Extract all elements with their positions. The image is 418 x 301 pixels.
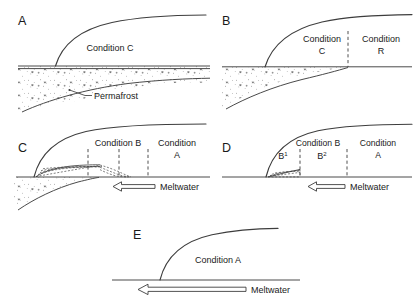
panel-b-condition-r-line1: Condition: [362, 34, 400, 44]
glacier-permafrost-figure: A Condition C Permafrost B: [0, 0, 418, 301]
panel-d-glacier-curve: [266, 124, 412, 177]
panel-a-condition-label: Condition C: [86, 43, 134, 53]
panel-e-letter: E: [133, 228, 141, 242]
panel-a: A Condition C Permafrost: [18, 14, 210, 112]
panel-b-condition-r-line2: R: [378, 46, 385, 56]
panel-e-meltwater-arrow-icon: [138, 284, 246, 294]
panel-e: E Condition A Meltwater: [112, 228, 300, 295]
panel-c-condition-a-line2: A: [174, 150, 180, 160]
panel-d-letter: D: [222, 141, 231, 155]
panel-d-meltwater-label: Meltwater: [350, 182, 389, 192]
panel-d-condition-a-line1: Condition: [360, 138, 397, 148]
panel-a-letter: A: [18, 14, 27, 28]
panel-d-subzone-b1-sup: 1: [284, 151, 288, 157]
panel-d-condition-a-line2: A: [375, 150, 381, 160]
panel-c-condition-a-line1: Condition: [158, 138, 196, 148]
panel-c-meltwater-arrow-icon: [113, 182, 155, 191]
panel-d-subzone-b2-sup: 2: [323, 151, 327, 157]
panel-c-letter: C: [18, 141, 27, 155]
panel-e-condition-a-label: Condition A: [195, 255, 241, 265]
panel-c-subglacial-dash-wedge: [36, 165, 131, 177]
panel-a-permafrost-leader-dot: [68, 89, 70, 91]
panel-b: B Condition C Condition R: [222, 14, 412, 109]
panel-b-letter: B: [222, 14, 230, 28]
panel-d-subzone-b2: B2: [317, 151, 327, 162]
panel-d-subzone-b1: B1: [278, 151, 288, 162]
panel-d-condition-b-label: Condition B: [296, 138, 341, 148]
panel-e-meltwater-label: Meltwater: [251, 285, 290, 295]
panel-b-condition-c-line2: C: [319, 46, 326, 56]
panel-a-permafrost-label: Permafrost: [94, 91, 139, 101]
panel-d-subglacial-dash-wedge: [268, 169, 300, 177]
panel-b-condition-c-line1: Condition: [303, 34, 341, 44]
permafrost-stipple-fill-a: [18, 66, 210, 110]
panel-a-glacier-curve: [56, 15, 207, 66]
panel-d: D Condition B Condition A B1 B2: [222, 124, 412, 191]
panel-c-condition-b-label: Condition B: [95, 138, 142, 148]
panel-c: C Condition B Condition: [14, 124, 210, 210]
panel-d-meltwater-arrow-icon: [308, 182, 345, 191]
panel-c-meltwater-label: Meltwater: [160, 182, 199, 192]
panel-a-permafrost-band: [18, 66, 210, 110]
figure-root: A Condition C Permafrost B: [0, 0, 418, 301]
